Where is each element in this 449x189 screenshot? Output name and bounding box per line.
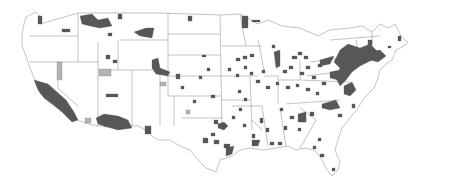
county bbox=[106, 55, 110, 59]
county bbox=[398, 36, 401, 41]
county bbox=[239, 108, 242, 111]
county bbox=[250, 54, 254, 57]
county bbox=[338, 114, 342, 117]
county bbox=[214, 140, 219, 144]
county bbox=[296, 84, 299, 87]
county bbox=[243, 56, 247, 59]
county bbox=[242, 16, 248, 28]
county bbox=[62, 29, 70, 32]
county bbox=[145, 126, 151, 134]
county bbox=[266, 86, 270, 89]
county bbox=[252, 134, 255, 138]
county bbox=[298, 52, 302, 55]
county bbox=[290, 116, 294, 119]
county bbox=[106, 94, 118, 97]
county bbox=[286, 86, 290, 89]
county bbox=[243, 124, 246, 127]
county bbox=[118, 14, 122, 19]
county bbox=[292, 56, 297, 59]
county bbox=[266, 128, 269, 132]
county bbox=[199, 76, 202, 79]
county bbox=[320, 154, 324, 157]
county bbox=[176, 74, 180, 79]
county bbox=[388, 46, 391, 48]
us-county-map bbox=[0, 0, 449, 189]
county bbox=[306, 88, 310, 91]
county bbox=[289, 66, 293, 69]
county bbox=[238, 90, 241, 93]
county bbox=[236, 58, 240, 61]
county bbox=[322, 82, 326, 85]
county bbox=[232, 116, 235, 119]
county bbox=[99, 69, 111, 76]
county bbox=[332, 168, 335, 171]
county bbox=[57, 62, 62, 80]
county bbox=[186, 110, 190, 114]
county bbox=[38, 16, 42, 24]
county bbox=[272, 45, 275, 48]
county bbox=[160, 82, 166, 86]
county bbox=[85, 118, 91, 123]
county bbox=[228, 68, 231, 71]
county bbox=[300, 72, 304, 75]
county bbox=[316, 92, 319, 95]
county bbox=[188, 16, 192, 21]
county bbox=[304, 56, 308, 59]
county bbox=[298, 128, 301, 131]
county bbox=[352, 104, 355, 108]
county bbox=[202, 55, 206, 57]
county bbox=[276, 82, 279, 85]
county bbox=[244, 98, 247, 101]
county bbox=[236, 74, 239, 77]
county bbox=[306, 66, 310, 69]
county bbox=[280, 108, 283, 111]
county bbox=[252, 20, 260, 22]
county bbox=[284, 126, 287, 130]
county bbox=[181, 86, 184, 89]
county bbox=[203, 138, 208, 143]
county bbox=[312, 76, 316, 79]
county bbox=[283, 70, 287, 73]
county bbox=[262, 70, 265, 73]
county bbox=[313, 146, 316, 149]
county bbox=[250, 72, 253, 75]
county bbox=[318, 138, 321, 141]
county bbox=[270, 142, 274, 145]
county bbox=[368, 40, 372, 45]
county bbox=[108, 33, 112, 36]
county bbox=[278, 142, 282, 145]
county bbox=[113, 60, 117, 63]
county bbox=[310, 112, 314, 116]
county bbox=[193, 100, 196, 103]
county bbox=[211, 133, 215, 136]
county bbox=[260, 118, 263, 123]
county bbox=[214, 120, 218, 124]
county bbox=[244, 66, 247, 69]
county bbox=[207, 68, 210, 71]
county bbox=[256, 80, 260, 83]
county bbox=[211, 95, 215, 98]
